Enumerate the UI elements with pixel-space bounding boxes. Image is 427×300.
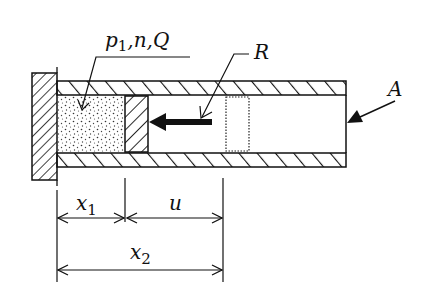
tube-end-pointer xyxy=(347,101,395,123)
diagram-canvas: p1,n,Q R A x1 u x2 xyxy=(0,0,427,300)
gas-label: p1,n,Q xyxy=(105,28,169,55)
projectile-label: R xyxy=(253,40,269,64)
tube-bottom-wall xyxy=(57,153,346,167)
piston-ghost-position xyxy=(226,97,249,151)
tube-top-wall xyxy=(57,81,346,95)
piston xyxy=(125,96,148,152)
gas-chamber xyxy=(58,96,125,152)
dimension-x1-label: x1 xyxy=(76,191,97,219)
tube-end-label: A xyxy=(386,77,402,101)
dimension-x2-label: x2 xyxy=(130,240,151,268)
dimension-u-label: u xyxy=(169,191,182,215)
fixed-wall xyxy=(32,67,57,186)
